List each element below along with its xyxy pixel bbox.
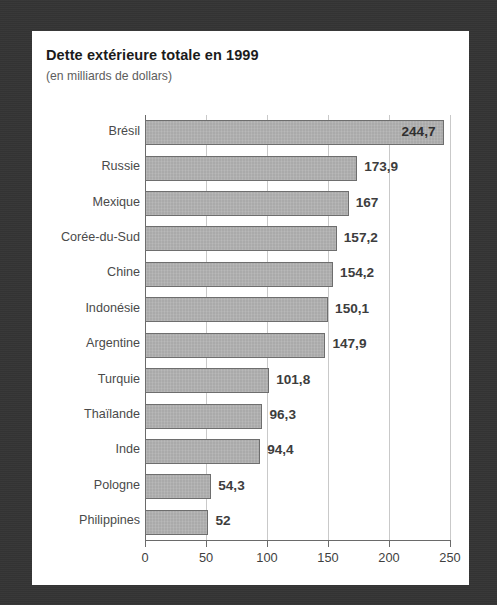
- category-label: Indonésie: [32, 301, 140, 315]
- category-label: Argentine: [32, 336, 140, 350]
- x-axis-tick-label: 50: [181, 550, 231, 565]
- bar-value-label: 154,2: [340, 265, 374, 280]
- category-label: Brésil: [32, 124, 140, 138]
- bar-value-label: 150,1: [335, 301, 369, 316]
- x-axis-tick: [206, 541, 207, 547]
- category-label: Philippines: [32, 513, 140, 527]
- bar: [145, 191, 349, 216]
- bar: [145, 333, 325, 358]
- bar-value-label: 96,3: [269, 407, 295, 422]
- image-frame: Dette extérieure totale en 1999 (en mill…: [0, 0, 497, 605]
- bar: [145, 439, 260, 464]
- bar-value-label: 244,7: [382, 124, 436, 139]
- bar-value-label: 173,9: [364, 159, 398, 174]
- category-label: Inde: [32, 442, 140, 456]
- bar-value-label: 94,4: [267, 442, 293, 457]
- x-axis-tick-label: 200: [364, 550, 414, 565]
- x-axis-tick-label: 150: [303, 550, 353, 565]
- x-axis-tick: [267, 541, 268, 547]
- bar-value-label: 54,3: [218, 478, 244, 493]
- category-label: Pologne: [32, 478, 140, 492]
- x-axis-tick: [145, 541, 146, 547]
- bar: [145, 404, 262, 429]
- category-label: Russie: [32, 159, 140, 173]
- category-label: Turquie: [32, 372, 140, 386]
- gridline: [389, 115, 390, 540]
- bar: [145, 510, 208, 535]
- x-axis-tick-label: 100: [242, 550, 292, 565]
- gridline: [450, 115, 451, 540]
- bar-value-label: 157,2: [344, 230, 378, 245]
- category-label: Mexique: [32, 195, 140, 209]
- bar-value-label: 147,9: [332, 336, 366, 351]
- x-axis-line: [145, 540, 451, 541]
- bar-value-label: 167: [356, 195, 379, 210]
- x-axis-tick: [389, 541, 390, 547]
- bar-value-label: 101,8: [276, 372, 310, 387]
- chart-card: Dette extérieure totale en 1999 (en mill…: [32, 31, 469, 585]
- category-label: Thaïlande: [32, 407, 140, 421]
- bar: [145, 297, 328, 322]
- bar: [145, 262, 333, 287]
- bar-value-label: 52: [215, 513, 230, 528]
- bar-chart-plot: Brésil244,7Russie173,9Mexique167Corée-du…: [32, 31, 469, 585]
- x-axis-tick: [450, 541, 451, 547]
- x-axis-tick-label: 250: [425, 550, 475, 565]
- x-axis-tick-label: 0: [120, 550, 170, 565]
- bar: [145, 226, 337, 251]
- category-label: Corée-du-Sud: [32, 230, 140, 244]
- bar: [145, 156, 357, 181]
- bar: [145, 474, 211, 499]
- bar: [145, 368, 269, 393]
- x-axis-tick: [328, 541, 329, 547]
- category-label: Chine: [32, 265, 140, 279]
